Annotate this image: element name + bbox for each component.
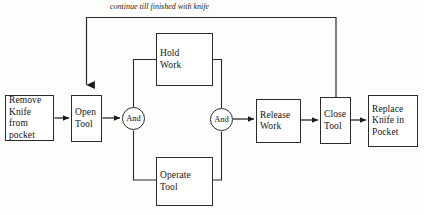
node-label-replace-knife: Replace Knife in Pocket — [372, 104, 404, 139]
node-replace-knife-in-pocket[interactable]: Replace Knife in Pocket — [368, 95, 418, 147]
node-close-tool[interactable]: Close Tool — [320, 97, 351, 144]
node-label-release-work: Release Work — [260, 110, 290, 133]
gate-and-2[interactable]: And — [210, 108, 233, 131]
node-release-work[interactable]: Release Work — [256, 99, 301, 143]
node-label-hold-work: Hold Work — [160, 48, 181, 71]
gate-label-and-2: And — [214, 115, 229, 124]
node-hold-work[interactable]: Hold Work — [156, 33, 213, 86]
node-operate-tool[interactable]: Operate Tool — [156, 157, 213, 206]
edge-and1-to-operate — [134, 131, 157, 181]
node-label-close-tool: Close Tool — [324, 109, 346, 132]
feedback-loop-caption: continue till finished with knife — [110, 2, 209, 11]
edge-operate-to-and2 — [213, 132, 222, 181]
edge-hold-to-and2 — [213, 60, 222, 109]
node-remove-knife-from-pocket[interactable]: Remove Knife from pocket — [5, 95, 54, 141]
edge-and1-to-hold — [134, 60, 157, 108]
gate-label-and-1: And — [126, 114, 141, 123]
node-label-remove-knife: Remove Knife from pocket — [9, 95, 50, 141]
flowchart-canvas: continue till finished with knife Remove… — [0, 0, 424, 215]
node-label-open-tool: Open Tool — [75, 107, 96, 130]
node-label-operate-tool: Operate Tool — [160, 170, 191, 193]
gate-and-1[interactable]: And — [122, 107, 145, 130]
node-open-tool[interactable]: Open Tool — [71, 95, 102, 142]
